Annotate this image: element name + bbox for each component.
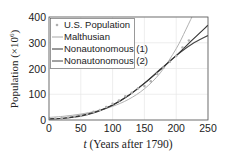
data-point-us-population bbox=[111, 103, 114, 106]
x-tick-label: 200 bbox=[167, 122, 185, 134]
legend-label: U.S. Population bbox=[64, 19, 130, 30]
x-axis-label: t (Years after 1790) bbox=[83, 138, 172, 151]
x-tick-label: 250 bbox=[199, 122, 217, 134]
data-point-us-population bbox=[73, 115, 76, 118]
data-point-us-population bbox=[137, 87, 140, 90]
data-point-us-population bbox=[92, 111, 95, 114]
y-tick-label: 100 bbox=[28, 88, 46, 100]
data-point-us-population bbox=[67, 116, 70, 119]
legend-label: Malthusian bbox=[64, 31, 110, 42]
data-point-us-population bbox=[54, 117, 57, 120]
data-point-us-population bbox=[60, 117, 63, 120]
data-point-us-population bbox=[130, 91, 133, 94]
y-tick-label: 400 bbox=[28, 11, 46, 23]
data-point-us-population bbox=[162, 66, 165, 69]
data-point-us-population bbox=[143, 85, 146, 88]
y-tick-label: 200 bbox=[28, 63, 46, 75]
data-point-us-population bbox=[149, 80, 152, 83]
data-point-us-population bbox=[175, 55, 178, 58]
x-tick-label: 50 bbox=[75, 122, 87, 134]
legend-label: Nonautonomous (2) bbox=[64, 55, 148, 66]
data-point-us-population bbox=[118, 99, 121, 102]
data-point-us-population bbox=[105, 106, 108, 109]
x-axis-ticks: 050100150200250 bbox=[46, 122, 217, 134]
population-chart: 0100200300400 050100150200250 Population… bbox=[0, 0, 226, 157]
data-point-us-population bbox=[86, 113, 89, 116]
x-tick-label: 150 bbox=[136, 122, 154, 134]
data-point-us-population bbox=[169, 60, 172, 63]
y-axis-ticks: 0100200300400 bbox=[28, 11, 46, 126]
legend-marker-icon bbox=[56, 24, 59, 27]
data-point-us-population bbox=[181, 46, 184, 49]
x-tick-label: 0 bbox=[46, 122, 52, 134]
data-point-us-population bbox=[124, 95, 127, 98]
legend-label: Nonautonomous (1) bbox=[64, 43, 148, 54]
data-point-us-population bbox=[80, 114, 83, 117]
data-point-us-population bbox=[188, 39, 191, 42]
legend: U.S. PopulationMalthusianNonautonomous (… bbox=[51, 19, 148, 69]
y-tick-label: 300 bbox=[28, 37, 46, 49]
x-tick-label: 100 bbox=[104, 122, 122, 134]
y-axis-label: Population (×106) bbox=[8, 29, 21, 108]
data-point-us-population bbox=[99, 109, 102, 112]
data-point-us-population bbox=[156, 73, 159, 76]
